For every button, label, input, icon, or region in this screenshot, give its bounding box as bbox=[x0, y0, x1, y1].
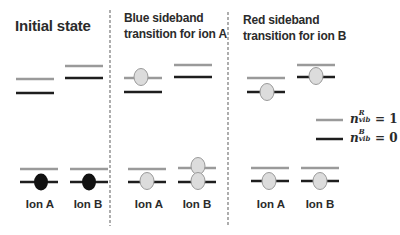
panel-blue-top bbox=[124, 65, 212, 92]
ion-a-population bbox=[134, 69, 148, 86]
title-line-1: Red sideband bbox=[243, 12, 346, 28]
legend-subscript: vib bbox=[359, 115, 371, 124]
legend-symbol: n bbox=[350, 112, 359, 126]
panel-title-initial: Initial state bbox=[15, 17, 91, 34]
ion-a-label: Ion A bbox=[26, 198, 54, 210]
panel-initial-bottom bbox=[20, 169, 108, 191]
legend-value: = 1 bbox=[375, 112, 398, 126]
ion-a-population bbox=[260, 84, 274, 101]
title-line-2: transition for ion A bbox=[124, 26, 227, 42]
legend-value: = 0 bbox=[375, 131, 398, 145]
ion-b-excited-population bbox=[191, 158, 205, 175]
panel-initial-top bbox=[16, 66, 103, 93]
ion-a-population bbox=[140, 173, 154, 190]
legend-ground-label: nBvib = 0 bbox=[350, 131, 398, 145]
legend-excited-label: nRvib = 1 bbox=[350, 112, 398, 126]
panel-red-bottom bbox=[251, 168, 339, 190]
ion-b-ground-population bbox=[191, 173, 205, 190]
title-line-1: Blue sideband bbox=[124, 10, 227, 26]
panel-red-top bbox=[247, 65, 335, 101]
ion-b-label: Ion B bbox=[74, 198, 103, 210]
title-line-2: transition for ion B bbox=[243, 28, 346, 44]
legend-symbol: n bbox=[350, 131, 359, 145]
legend-subscript: vib bbox=[359, 134, 371, 143]
ion-b-label: Ion B bbox=[183, 198, 212, 210]
ion-a-label: Ion A bbox=[257, 198, 285, 210]
ion-b-label: Ion B bbox=[306, 198, 335, 210]
ion-b-population bbox=[82, 174, 96, 191]
ion-a-label: Ion A bbox=[135, 198, 163, 210]
ion-a-population bbox=[262, 173, 276, 190]
panel-title-blue-sideband: Blue sideband transition for ion A bbox=[124, 10, 227, 42]
ion-b-population bbox=[309, 68, 323, 85]
panel-title-red-sideband: Red sideband transition for ion B bbox=[243, 12, 346, 44]
ion-a-population bbox=[34, 174, 48, 191]
ion-b-population bbox=[313, 173, 327, 190]
panel-blue-bottom bbox=[128, 158, 216, 190]
